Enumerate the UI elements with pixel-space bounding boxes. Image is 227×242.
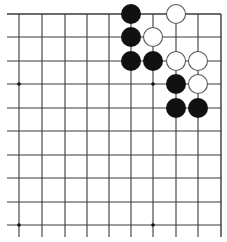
white-stone (189, 75, 208, 94)
star-point-icon (17, 223, 21, 227)
white-stone (167, 5, 186, 24)
black-stone (188, 98, 208, 118)
white-stone (189, 52, 208, 71)
grid-lines (7, 14, 221, 237)
black-stone (121, 4, 141, 24)
white-stone (167, 52, 186, 71)
black-stone (143, 51, 163, 71)
black-stone (121, 27, 141, 47)
black-stone (166, 98, 186, 118)
star-point-icon (151, 223, 155, 227)
black-stone (166, 74, 186, 94)
black-stone (121, 51, 141, 71)
go-board (0, 0, 227, 242)
star-point-icon (151, 82, 155, 86)
star-point-icon (17, 82, 21, 86)
white-stone (144, 28, 163, 47)
